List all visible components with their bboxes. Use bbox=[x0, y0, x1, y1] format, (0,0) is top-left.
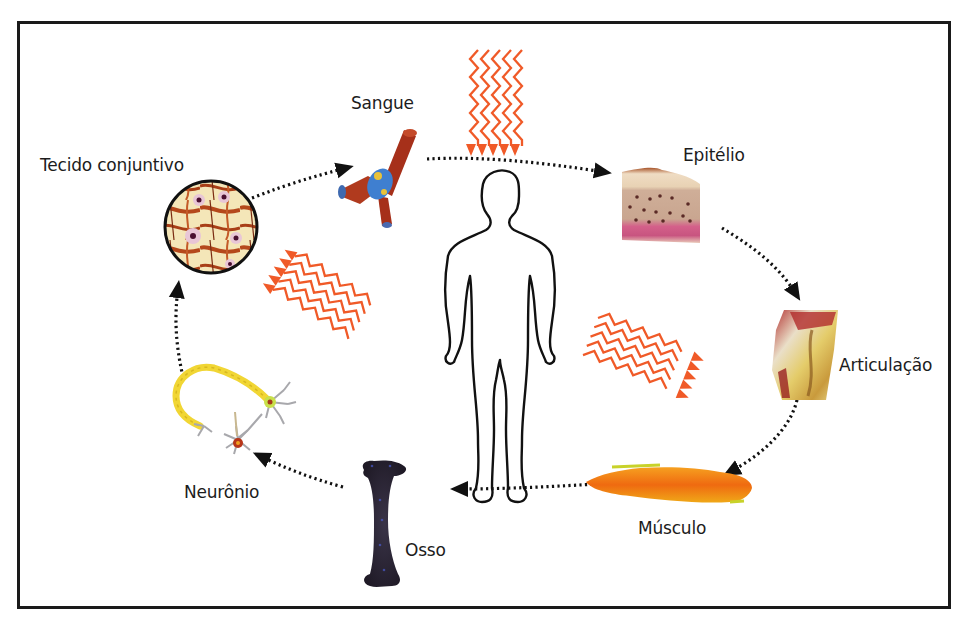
arrow-sangue-to-epitelio bbox=[427, 158, 604, 172]
arrow-neuronio-to-tecido bbox=[176, 288, 183, 377]
label-musculo: Músculo bbox=[638, 518, 706, 538]
label-osso: Osso bbox=[405, 540, 446, 560]
muscle-icon bbox=[586, 465, 752, 503]
arrow-articulacao-to-musculo bbox=[730, 400, 797, 472]
neuron-icon bbox=[176, 367, 296, 454]
arrow-musculo-to-osso bbox=[458, 484, 598, 489]
label-epitelio: Epitélio bbox=[683, 145, 745, 165]
joint-icon bbox=[772, 310, 838, 400]
epithelium-icon bbox=[622, 168, 700, 243]
connective-tissue-icon bbox=[165, 181, 257, 273]
arrow-tecido-to-sangue bbox=[252, 168, 346, 198]
label-sangue: Sangue bbox=[351, 93, 414, 113]
arrow-epitelio-to-articulacao bbox=[722, 228, 796, 294]
label-neuronio: Neurônio bbox=[184, 482, 259, 502]
human-body-icon bbox=[445, 171, 555, 503]
bone-icon bbox=[363, 461, 406, 587]
diagram-canvas bbox=[0, 0, 969, 619]
blood-vessel-icon bbox=[338, 129, 417, 228]
cycle-arrows bbox=[176, 158, 797, 489]
radiation-arrows-right bbox=[581, 311, 707, 403]
label-tecido-conjuntivo: Tecido conjuntivo bbox=[40, 155, 184, 175]
label-articulacao: Articulação bbox=[839, 355, 932, 375]
radiation-arrows-left bbox=[260, 243, 374, 343]
radiation-arrows-top bbox=[466, 50, 522, 156]
arrow-osso-to-neuronio bbox=[260, 456, 343, 487]
